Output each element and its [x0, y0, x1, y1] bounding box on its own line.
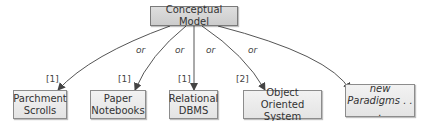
new-paradigms-node: new Paradigms . . . — [345, 84, 415, 117]
node-label: Conceptual Model — [151, 4, 237, 28]
node-label-line2: System — [244, 111, 321, 122]
ref-label: [1] — [46, 74, 59, 84]
ref-label: [1] — [118, 74, 131, 84]
ref-label: [2] — [236, 74, 249, 84]
conceptual-model-node: Conceptual Model — [150, 6, 238, 26]
edge-label-or: or — [248, 45, 257, 55]
paper-notebooks-node: Paper Notebooks — [90, 90, 146, 119]
edge-oo — [202, 26, 265, 90]
node-label-line2: Scrolls — [13, 105, 67, 117]
relational-dbms-node: Relational DBMS — [169, 90, 218, 119]
node-label-line1: new — [346, 83, 414, 95]
node-label-line1: Relational — [169, 93, 219, 105]
ref-label: [1] — [178, 74, 191, 84]
edge-label-or: or — [136, 45, 145, 55]
edge-parchment — [58, 26, 170, 90]
edge-label-or: or — [206, 45, 215, 55]
object-oriented-system-node: Object Oriented System — [243, 90, 322, 119]
node-label-line1: Paper — [91, 93, 144, 105]
edge-label-or: or — [175, 45, 184, 55]
parchment-scrolls-node: Parchment Scrolls — [13, 90, 67, 119]
node-label-line2: Notebooks — [91, 105, 144, 117]
node-label-line2: Paradigms . . . — [346, 95, 414, 119]
node-label-line2: DBMS — [169, 105, 219, 117]
node-label-line1: Parchment — [13, 93, 67, 105]
node-label-line1: Object Oriented — [244, 87, 321, 111]
